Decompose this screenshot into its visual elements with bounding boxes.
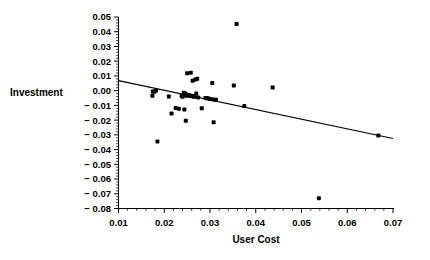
data-point — [185, 71, 189, 75]
y-axis-title: Investment — [10, 87, 63, 98]
regression-line — [119, 81, 394, 139]
data-point — [214, 98, 218, 102]
y-tick-label: − 0.07 — [84, 188, 111, 199]
y-tick-label: 0.05 — [93, 11, 112, 22]
x-tick-label: 0.07 — [384, 217, 403, 228]
data-point — [154, 89, 158, 93]
data-point — [194, 92, 198, 96]
y-tick-label: − 0.05 — [84, 159, 111, 170]
x-axis-major-ticks — [119, 209, 394, 214]
y-tick-label: − 0.08 — [84, 203, 111, 214]
scatter-plot-figure: 0.050.040.030.020.010.00− 0.01− 0.02− 0.… — [0, 0, 430, 260]
data-point — [235, 22, 239, 26]
data-point — [317, 196, 321, 200]
y-tick-label: 0.02 — [93, 56, 112, 67]
y-tick-label: 0.04 — [93, 26, 112, 37]
x-tick-label: 0.01 — [109, 217, 128, 228]
data-point — [376, 134, 380, 138]
data-point — [196, 95, 200, 99]
data-point — [232, 83, 236, 87]
y-tick-label: − 0.04 — [84, 144, 111, 155]
y-tick-label: 0.01 — [93, 70, 112, 81]
x-axis-title: User Cost — [232, 234, 280, 245]
y-tick-label: − 0.02 — [84, 115, 111, 126]
chart-canvas: 0.050.040.030.020.010.00− 0.01− 0.02− 0.… — [0, 0, 430, 260]
data-point — [155, 139, 159, 143]
x-axis-tick-labels: 0.010.020.030.040.050.060.07 — [109, 217, 402, 228]
y-axis-tick-labels: 0.050.040.030.020.010.00− 0.01− 0.02− 0.… — [84, 11, 111, 214]
data-point — [200, 106, 204, 110]
x-tick-label: 0.05 — [292, 217, 311, 228]
x-tick-label: 0.02 — [155, 217, 174, 228]
x-tick-label: 0.03 — [201, 217, 220, 228]
data-point — [189, 71, 193, 75]
data-point — [193, 78, 197, 82]
x-tick-label: 0.06 — [338, 217, 357, 228]
data-point — [212, 120, 216, 124]
data-point — [150, 94, 154, 98]
y-tick-label: 0.00 — [93, 85, 112, 96]
data-point — [182, 108, 186, 112]
data-point — [177, 107, 181, 111]
x-tick-label: 0.04 — [247, 217, 266, 228]
y-tick-label: − 0.01 — [84, 100, 111, 111]
data-point — [167, 95, 171, 99]
data-point — [170, 111, 174, 115]
y-tick-label: − 0.06 — [84, 173, 111, 184]
data-point — [184, 119, 188, 123]
y-tick-label: 0.03 — [93, 41, 112, 52]
data-point — [271, 85, 275, 89]
data-point — [242, 104, 246, 108]
data-point — [210, 81, 214, 85]
y-axis-major-ticks — [114, 17, 119, 209]
y-tick-label: − 0.03 — [84, 129, 111, 140]
